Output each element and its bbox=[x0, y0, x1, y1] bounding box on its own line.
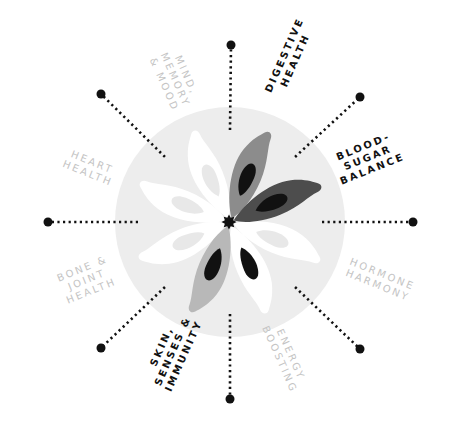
spoke-end-dot bbox=[409, 218, 418, 227]
wellness-flower-diagram bbox=[0, 0, 449, 432]
spoke-end-dot bbox=[356, 345, 365, 354]
center-star-icon bbox=[222, 215, 237, 230]
spoke-end-dot bbox=[44, 218, 53, 227]
dotted-spoke-line bbox=[101, 287, 165, 348]
spoke-end-dot bbox=[97, 90, 106, 99]
spoke-end-dot bbox=[227, 41, 236, 50]
spoke-end-dot bbox=[97, 344, 106, 353]
spoke-end-dot bbox=[356, 93, 365, 102]
spoke-end-dot bbox=[226, 395, 235, 404]
dotted-spoke-line bbox=[230, 45, 231, 130]
